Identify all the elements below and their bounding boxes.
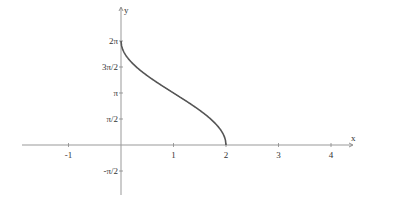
x-tick-label: 4 [329, 150, 334, 160]
x-tick-label: 2 [224, 150, 229, 160]
y-tick-label: π [113, 88, 118, 98]
function-plot: x y -11234 2π3π/2ππ/2-π/2 [0, 0, 396, 211]
x-axis-label: x [351, 133, 356, 143]
y-axis-label: y [124, 5, 129, 15]
x-tick-label: 1 [171, 150, 176, 160]
function-curve [121, 41, 226, 145]
y-ticks: 2π3π/2ππ/2-π/2 [102, 36, 123, 176]
y-tick-label: 2π [109, 36, 119, 46]
y-tick-label: 3π/2 [102, 62, 118, 72]
y-tick-label: π/2 [106, 114, 118, 124]
y-axis: y [119, 5, 129, 195]
x-tick-label: -1 [65, 150, 73, 160]
x-axis: x [22, 133, 356, 147]
x-tick-label: 3 [276, 150, 281, 160]
x-ticks: -11234 [65, 143, 334, 160]
y-tick-label: -π/2 [103, 166, 118, 176]
